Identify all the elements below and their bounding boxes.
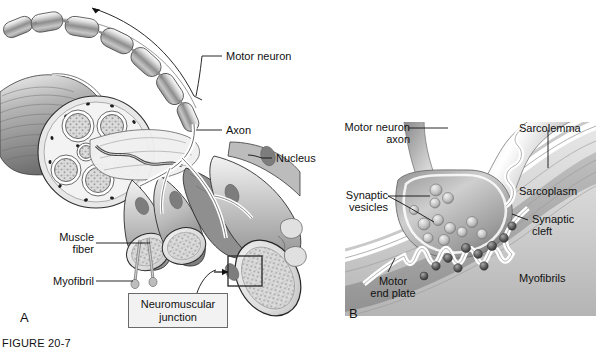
connective-sheet <box>90 130 200 180</box>
label-myofibrils: Myofibrils <box>519 272 565 284</box>
label-motor-end-plate: Motor end plate <box>358 275 428 299</box>
label-axon: Axon <box>226 124 251 136</box>
label-nucleus: Nucleus <box>276 152 316 164</box>
figure-caption: FIGURE 20-7 <box>2 337 71 347</box>
panel-b-id: B <box>349 306 358 321</box>
illustration-canvas <box>0 0 596 347</box>
label-muscle-fiber: Muscle fiber <box>20 231 94 255</box>
label-myofibril: Myofibril <box>20 275 94 287</box>
label-sarcolemma: Sarcolemma <box>519 122 581 134</box>
panel-a-id: A <box>20 310 29 325</box>
label-sarcoplasm: Sarcoplasm <box>519 185 577 197</box>
label-motor-neuron-axon: Motor neuron axon <box>320 121 410 145</box>
label-motor-neuron: Motor neuron <box>226 50 291 62</box>
label-synaptic-cleft: Synaptic cleft <box>532 213 574 237</box>
figure-neuromuscular-junction: Motor neuron Axon Nucleus Muscle fiber M… <box>0 0 596 347</box>
label-neuromuscular-junction: Neuromuscular junction <box>128 293 228 328</box>
label-synaptic-vesicles: Synaptic vesicles <box>322 189 388 213</box>
